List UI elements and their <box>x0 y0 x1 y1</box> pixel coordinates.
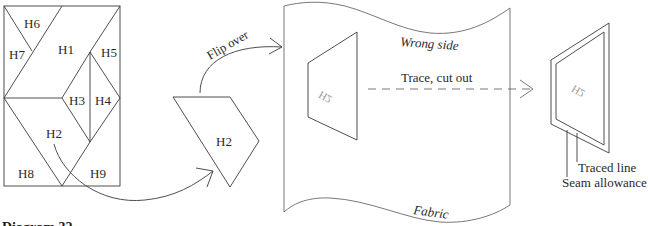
trace-cut-out-label: Trace, cut out <box>401 70 473 85</box>
piece-label-h6: H6 <box>24 16 40 31</box>
seam-h2-h9 <box>62 142 90 186</box>
piece-label-h5: H5 <box>101 45 117 60</box>
piece-label-h1: H1 <box>58 42 74 57</box>
diagram-canvas: H6 H7 H1 H5 H3 H4 H2 H8 H9 H2 Flip over … <box>0 0 648 226</box>
flip-arrow: Flip over <box>200 27 282 93</box>
flip-arrowhead-icon <box>269 38 282 54</box>
traced-piece-outline <box>308 32 357 140</box>
traced-piece-label: H2 <box>316 89 334 106</box>
isolated-piece-label: H2 <box>216 134 232 149</box>
cut-piece: H2 Traced line Seam allowance <box>551 23 647 190</box>
wrong-side-label: Wrong side <box>400 34 460 53</box>
extract-arrow-curve <box>54 144 213 201</box>
piece-label-h7: H7 <box>9 47 25 62</box>
cut-piece-label: H2 <box>569 83 587 100</box>
piece-label-h2: H2 <box>46 126 62 141</box>
seam-allowance-callout: Seam allowance <box>562 175 647 190</box>
piece-label-h3: H3 <box>69 93 85 108</box>
piece-label-h8: H8 <box>18 166 34 181</box>
fabric: Wrong side Fabric H2 <box>284 2 510 222</box>
piece-label-h9: H9 <box>90 166 106 181</box>
piece-label-h4: H4 <box>95 93 111 108</box>
flip-over-label: Flip over <box>205 27 252 62</box>
diagram-caption: Diagram 32 <box>2 220 72 226</box>
extract-arrow <box>54 144 213 201</box>
traced-line-callout: Traced line <box>578 160 637 175</box>
isolated-piece: H2 <box>173 97 259 187</box>
fabric-label: Fabric <box>412 202 450 222</box>
quilt-block: H6 H7 H1 H5 H3 H4 H2 H8 H9 <box>4 6 120 186</box>
fabric-outline <box>284 2 510 222</box>
trace-arrow: Trace, cut out <box>368 70 533 98</box>
